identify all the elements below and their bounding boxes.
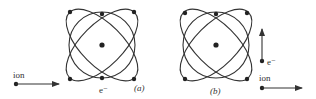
ion-label-a: ion <box>13 70 25 80</box>
caption-b: (b) <box>210 86 221 96</box>
atom-diagram-a: e⁻ (a) ion <box>13 0 149 95</box>
caption-a: (a) <box>134 83 145 93</box>
nucleus-dot <box>99 42 104 47</box>
electron-label-b: e⁻ <box>267 57 276 67</box>
nucleus-dot <box>213 42 218 47</box>
ion-label-b: ion <box>259 73 271 83</box>
atom-ion-collision-figure: e⁻ (a) ion (b) e⁻ ion <box>0 0 316 99</box>
atom-diagram-b: (b) e⁻ ion <box>169 0 302 96</box>
electron-label-a: e⁻ <box>99 85 108 95</box>
